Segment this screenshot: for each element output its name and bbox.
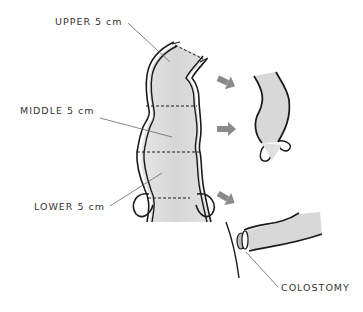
label-lower: LOWER 5 cm (34, 201, 105, 212)
arrow-3-icon (215, 187, 238, 209)
arrow-1-icon (215, 72, 238, 93)
label-colostomy: COLOSTOMY (281, 282, 350, 293)
rectum-main (134, 42, 215, 222)
label-middle: MIDDLE 5 cm (20, 105, 95, 116)
arrows (215, 72, 238, 209)
label-upper: UPPER 5 cm (55, 16, 123, 27)
abdominal-wall (226, 222, 239, 278)
resected-segment (254, 72, 290, 161)
colostomy-segment (226, 212, 322, 278)
diagram-canvas (0, 0, 363, 312)
arrow-2-icon (217, 122, 236, 136)
